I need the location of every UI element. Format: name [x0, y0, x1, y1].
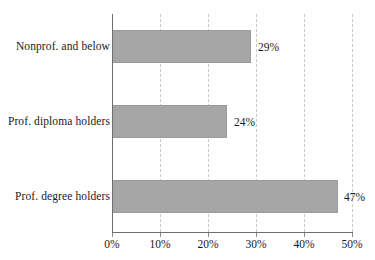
x-tick-label-10: 10% [140, 238, 180, 250]
x-tick-label-0: 0% [92, 238, 132, 250]
x-tick-40 [304, 233, 305, 237]
bar-chart: Nonprof. and below Prof. diploma holders… [0, 0, 375, 260]
bar-value-nonprof-and-below: 29% [258, 41, 279, 53]
category-label-prof-diploma-holders: Prof. diploma holders [0, 115, 110, 127]
bar-prof-diploma-holders [112, 105, 227, 138]
bar-prof-degree-holders [112, 180, 338, 213]
category-label-prof-degree-holders: Prof. degree holders [0, 190, 110, 202]
x-tick-label-50: 50% [332, 238, 372, 250]
bar-value-prof-diploma-holders: 24% [234, 116, 255, 128]
x-tick-20 [208, 233, 209, 237]
x-tick-10 [160, 233, 161, 237]
plot-area: 29% 24% 47% [112, 14, 352, 232]
x-axis-line [112, 232, 353, 233]
x-tick-30 [256, 233, 257, 237]
x-tick-0 [112, 233, 113, 237]
bar-nonprof-and-below [112, 30, 251, 63]
x-tick-label-30: 30% [236, 238, 276, 250]
x-tick-label-20: 20% [188, 238, 228, 250]
category-label-nonprof-and-below: Nonprof. and below [0, 40, 110, 52]
x-tick-50 [352, 233, 353, 237]
y-axis-line [112, 14, 113, 233]
bar-value-prof-degree-holders: 47% [344, 191, 365, 203]
x-tick-label-40: 40% [284, 238, 324, 250]
